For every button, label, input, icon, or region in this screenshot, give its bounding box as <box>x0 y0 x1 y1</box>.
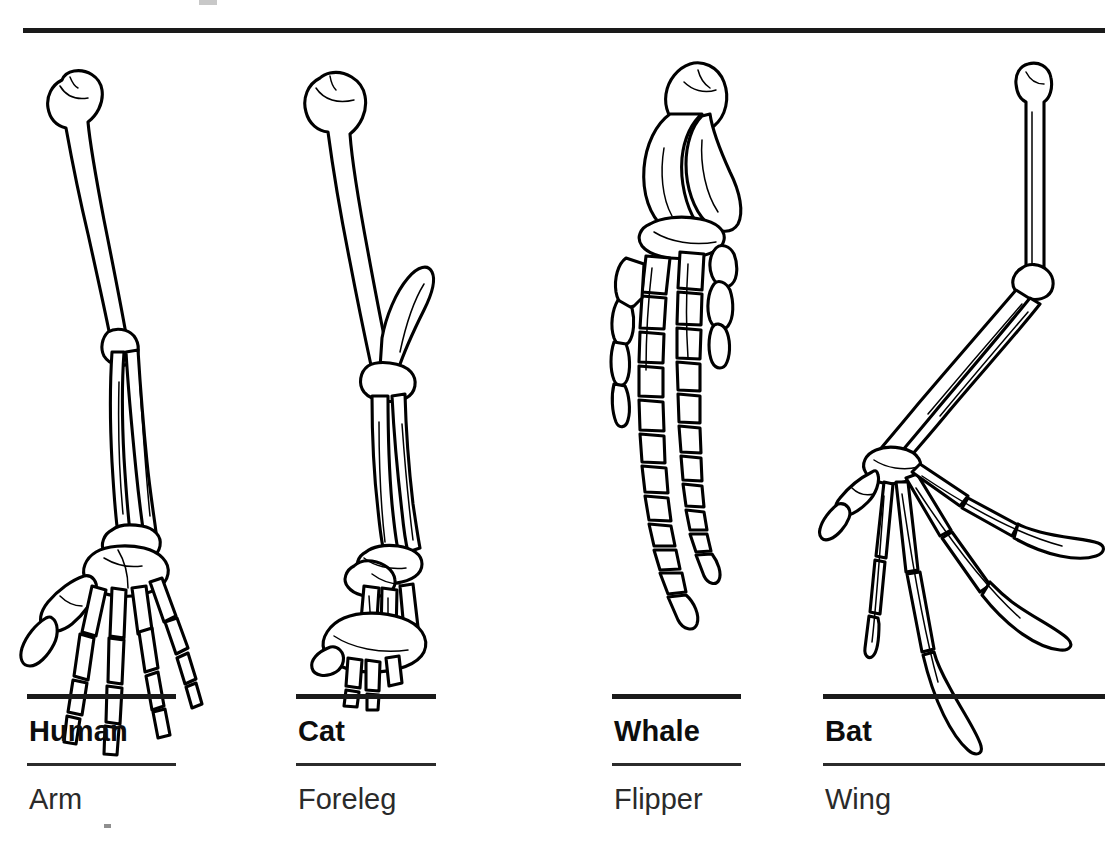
caption-bat: Bat Wing <box>823 694 1105 814</box>
human-arm-skeleton <box>0 52 210 672</box>
figure-canvas: Human Arm Cat Foreleg Whale Flipper Bat … <box>0 0 1117 845</box>
specimen-name-bat: Bat <box>823 699 1105 763</box>
specimen-human-arm <box>0 52 210 672</box>
caption-whale: Whale Flipper <box>612 694 741 814</box>
specimen-part-whale: Flipper <box>612 766 741 814</box>
top-divider-rule <box>23 28 1105 33</box>
bat-digit-2 <box>865 482 893 658</box>
specimen-name-whale: Whale <box>612 699 741 763</box>
caption-cat: Cat Foreleg <box>296 694 436 814</box>
specimen-cat-foreleg <box>268 52 468 672</box>
specimen-name-human: Human <box>27 699 176 763</box>
specimen-bat-wing <box>800 52 1117 672</box>
cat-foreleg-skeleton <box>268 52 468 672</box>
caption-human: Human Arm <box>27 694 176 814</box>
specimen-part-human: Arm <box>27 766 176 814</box>
whale-flipper-skeleton <box>580 52 780 672</box>
bat-wing-skeleton <box>800 52 1117 672</box>
scan-artifact-speck <box>104 824 111 828</box>
cropped-title-remnant <box>199 0 217 5</box>
specimen-name-cat: Cat <box>296 699 436 763</box>
specimen-part-bat: Wing <box>823 766 1105 814</box>
specimen-whale-flipper <box>580 52 780 672</box>
specimen-part-cat: Foreleg <box>296 766 436 814</box>
